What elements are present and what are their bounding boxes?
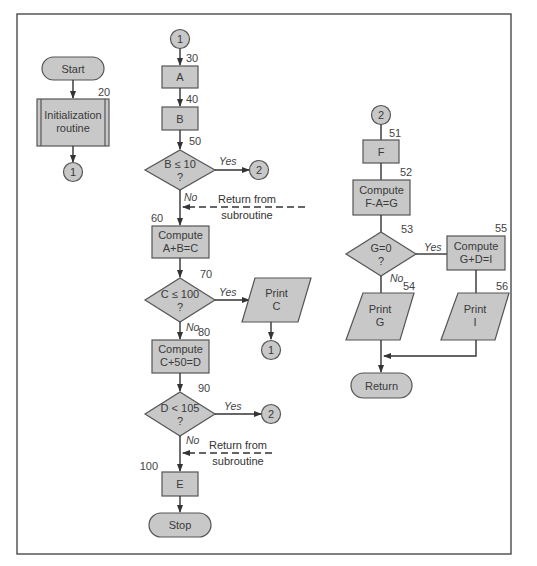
svg-text:No: No <box>184 191 198 203</box>
svg-text:Compute: Compute <box>454 240 499 252</box>
svg-text:51: 51 <box>389 127 401 139</box>
connector-2-from-d: 2 <box>262 405 281 424</box>
svg-text:F: F <box>378 146 385 158</box>
return-note-1-line1: Return from <box>218 193 276 205</box>
connector-2-subroutine-entry: 2 <box>372 106 391 125</box>
print-i-io: Print I 56 <box>441 280 509 340</box>
svg-text:Stop: Stop <box>169 519 192 531</box>
svg-text:Yes: Yes <box>219 286 237 298</box>
svg-text:G: G <box>376 316 385 328</box>
connector-1-main-entry: 1 <box>171 30 190 49</box>
svg-text:30: 30 <box>186 52 198 64</box>
svg-text:2: 2 <box>256 164 262 176</box>
stop-terminal: Stop <box>149 513 211 537</box>
svg-text:52: 52 <box>400 166 412 178</box>
return-note-2-line1: Return from <box>209 439 267 451</box>
svg-text:F-A=G: F-A=G <box>365 197 398 209</box>
svg-text:B: B <box>176 113 183 125</box>
svg-text:B ≤ 10: B ≤ 10 <box>164 158 196 170</box>
svg-text:53: 53 <box>401 223 413 235</box>
svg-text:routine: routine <box>56 122 90 134</box>
svg-text:G+D=I: G+D=I <box>460 253 492 265</box>
svg-text:?: ? <box>177 301 183 313</box>
svg-text:70: 70 <box>200 268 212 280</box>
return-note-2-line2: subroutine <box>212 455 263 467</box>
connector-1-from-print-c: 1 <box>262 341 281 360</box>
compute-f-minus-a: Compute F-A=G 52 <box>353 166 412 215</box>
svg-text:C+50=D: C+50=D <box>160 356 201 368</box>
svg-text:80: 80 <box>198 326 210 338</box>
merge-arrow-from-print-i <box>384 340 476 356</box>
svg-text:56: 56 <box>496 280 508 292</box>
start-terminal: Start <box>42 57 104 80</box>
svg-text:D < 105: D < 105 <box>161 402 200 414</box>
svg-text:A: A <box>176 71 184 83</box>
svg-text:C ≤ 100: C ≤ 100 <box>161 288 199 300</box>
svg-text:1: 1 <box>268 344 274 356</box>
svg-text:1: 1 <box>70 166 76 178</box>
svg-text:Initialization: Initialization <box>44 109 101 121</box>
connector-1-init: 1 <box>64 163 83 182</box>
svg-text:I: I <box>473 316 476 328</box>
box-e: E 100 <box>140 460 198 496</box>
svg-text:No: No <box>186 434 200 446</box>
svg-text:100: 100 <box>140 460 158 472</box>
svg-text:Return: Return <box>365 380 398 392</box>
return-note-1-line2: subroutine <box>221 209 272 221</box>
svg-text:G=0: G=0 <box>370 242 391 254</box>
return-terminal: Return <box>351 373 412 398</box>
svg-text:40: 40 <box>186 93 198 105</box>
svg-text:Compute: Compute <box>359 184 404 196</box>
compute-c-plus-50: Compute C+50=D 80 <box>152 326 210 373</box>
compute-g-plus-d: Compute G+D=I 55 <box>447 222 507 270</box>
box-f: F 51 <box>363 127 401 163</box>
svg-text:Yes: Yes <box>219 155 237 167</box>
print-c-io: Print C <box>242 278 311 322</box>
flowchart-canvas: Start Initialization routine 20 1 1 A 30… <box>0 0 537 566</box>
svg-text:Yes: Yes <box>224 400 242 412</box>
svg-text:90: 90 <box>198 382 210 394</box>
svg-text:Compute: Compute <box>158 343 203 355</box>
connector-2-from-b: 2 <box>250 161 269 180</box>
svg-text:2: 2 <box>378 109 384 121</box>
svg-text:Yes: Yes <box>424 241 442 253</box>
svg-text:55: 55 <box>495 222 507 234</box>
svg-text:?: ? <box>177 171 183 183</box>
svg-text:20: 20 <box>98 86 110 98</box>
svg-text:60: 60 <box>151 212 163 224</box>
svg-text:E: E <box>176 478 183 490</box>
svg-text:1: 1 <box>177 33 183 45</box>
svg-text:2: 2 <box>268 408 274 420</box>
svg-text:50: 50 <box>189 135 201 147</box>
svg-text:?: ? <box>378 255 384 267</box>
svg-text:?: ? <box>177 415 183 427</box>
svg-text:Print: Print <box>265 287 288 299</box>
svg-text:Compute: Compute <box>158 229 203 241</box>
svg-text:No: No <box>390 272 404 284</box>
svg-text:54: 54 <box>403 280 415 292</box>
svg-text:Print: Print <box>369 303 392 315</box>
svg-text:Print: Print <box>464 303 487 315</box>
svg-text:Start: Start <box>61 63 84 75</box>
svg-text:C: C <box>273 300 281 312</box>
svg-text:A+B=C: A+B=C <box>163 242 199 254</box>
